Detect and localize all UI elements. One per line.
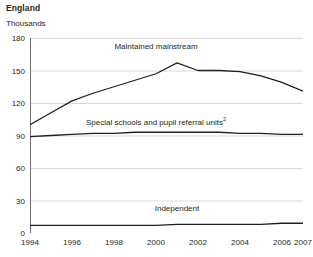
y-axis-tick-label: 180 bbox=[12, 34, 30, 43]
x-axis-tick-label: 2002 bbox=[189, 238, 207, 247]
series-line-2 bbox=[30, 223, 303, 225]
x-axis-tick-label: 2004 bbox=[231, 238, 249, 247]
y-axis-tick-label: 30 bbox=[16, 196, 30, 205]
y-axis-tick-label: 90 bbox=[16, 131, 30, 140]
x-axis-tick-label: 1996 bbox=[63, 238, 81, 247]
x-axis-tick-label: 1994 bbox=[21, 238, 39, 247]
plot-area: 0306090120150180199419961998200020022004… bbox=[30, 38, 303, 233]
x-axis-tick-label: 1998 bbox=[105, 238, 123, 247]
series-annotation-2: Independent bbox=[155, 204, 200, 213]
footnote-marker: 2 bbox=[223, 116, 226, 122]
y-axis-tick-label: 150 bbox=[12, 66, 30, 75]
chart-title: England bbox=[6, 3, 40, 13]
series-line-0 bbox=[30, 63, 303, 125]
series-annotation-1: Special schools and pupil referral units… bbox=[86, 116, 226, 127]
y-axis-tick-label: 0 bbox=[21, 229, 30, 238]
x-axis-tick-label: 2007 bbox=[294, 238, 312, 247]
y-axis-unit-label: Thousands bbox=[6, 19, 46, 28]
x-axis-tick-label: 2006 bbox=[273, 238, 291, 247]
y-axis-tick-label: 60 bbox=[16, 164, 30, 173]
chart-container: England Thousands 0306090120150180199419… bbox=[0, 0, 313, 257]
series-annotation-0: Maintained mainstream bbox=[114, 42, 197, 51]
y-axis-tick-label: 120 bbox=[12, 99, 30, 108]
x-axis-tick-label: 2000 bbox=[147, 238, 165, 247]
